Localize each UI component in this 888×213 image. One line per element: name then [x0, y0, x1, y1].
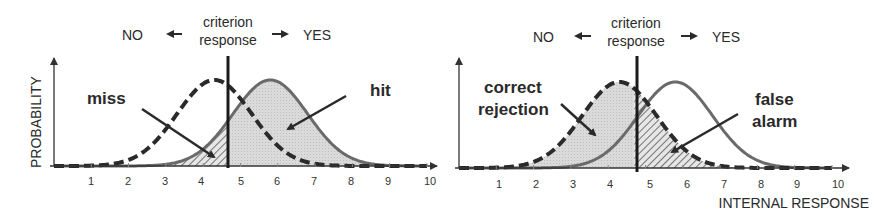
x-tick-label: 4	[198, 175, 204, 187]
false-alarm-pointer-arrow	[672, 114, 738, 152]
left-panel-hit-miss: 12345678910 PROBABILITY NO criterion res…	[28, 14, 437, 187]
x-tick-label: 3	[570, 178, 576, 190]
y-axis-label: PROBABILITY	[28, 76, 44, 168]
x-tick-label: 1	[88, 175, 94, 187]
miss-region	[136, 119, 229, 166]
x-tick-label: 6	[274, 175, 280, 187]
signal-detection-figure: 12345678910 PROBABILITY NO criterion res…	[0, 0, 888, 213]
x-tick-label: 7	[311, 175, 317, 187]
miss-pointer-arrow	[142, 109, 214, 157]
x-tick-label: 9	[385, 175, 391, 187]
miss-label: miss	[87, 89, 126, 108]
x-tick-label: 3	[162, 175, 168, 187]
criterion-label-line1: criterion	[611, 15, 661, 31]
correct-rejection-label-line2: rejection	[478, 100, 549, 119]
criterion-label-line1: criterion	[203, 14, 253, 30]
x-tick-label: 2	[125, 175, 131, 187]
yes-label: YES	[303, 27, 331, 43]
criterion-label-line2: response	[607, 33, 665, 49]
criterion-label-line2: response	[199, 32, 257, 48]
x-tick-label: 10	[832, 178, 844, 190]
no-label: NO	[122, 27, 143, 43]
x-tick-label: 2	[533, 178, 539, 190]
x-tick-label: 8	[758, 178, 764, 190]
hit-label: hit	[370, 81, 391, 100]
x-tick-label: 10	[424, 175, 436, 187]
x-tick-label: 4	[607, 178, 613, 190]
yes-label: YES	[712, 29, 740, 45]
right-panel-cr-fa: 12345678910 INTERNAL RESPONSE NO criteri…	[455, 15, 869, 211]
x-tick-label: 1	[496, 178, 502, 190]
x-tick-label: 8	[348, 175, 354, 187]
x-tick-label: 5	[238, 175, 244, 187]
x-tick-label: 7	[721, 178, 727, 190]
false-alarm-label-line2: alarm	[752, 112, 797, 131]
x-tick-label: 6	[684, 178, 690, 190]
false-alarm-label-line1: false	[755, 90, 794, 109]
x-axis-label: INTERNAL RESPONSE	[719, 195, 869, 211]
x-tick-label: 9	[794, 178, 800, 190]
x-tick-label: 5	[647, 178, 653, 190]
correct-rejection-label-line1: correct	[484, 78, 542, 97]
no-label: NO	[533, 29, 554, 45]
